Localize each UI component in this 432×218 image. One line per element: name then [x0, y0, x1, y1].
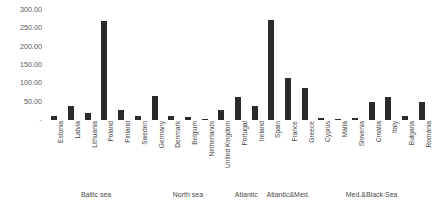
bar[interactable]	[285, 78, 291, 120]
category-label-slot: France	[280, 121, 297, 185]
category-label-slot: Latvia	[63, 121, 80, 185]
bar-slot	[163, 10, 180, 120]
category-label-slot: Spain	[263, 121, 280, 185]
category-label-slot: United Kingdom	[213, 121, 230, 185]
bar[interactable]	[152, 96, 158, 120]
bar[interactable]	[185, 117, 191, 120]
category-label-slot: Denmark	[163, 121, 180, 185]
y-axis-zero-label: -	[40, 116, 42, 124]
bar[interactable]	[252, 106, 258, 120]
category-axis-labels: EstoniaLatviaLithuaniaPolandFinlandSwede…	[46, 121, 430, 185]
group-label: Atlantic&Med.	[263, 190, 313, 199]
bar[interactable]	[369, 102, 375, 120]
bar-slot	[280, 10, 297, 120]
group-label: Atlantic	[230, 190, 263, 199]
y-axis-tick-label: 100.00	[20, 79, 42, 87]
category-label-slot: Romania	[413, 121, 430, 185]
bar-slot	[146, 10, 163, 120]
group-label: Med.&Black Sea	[313, 190, 430, 199]
bar[interactable]	[385, 97, 391, 120]
category-label-slot: Bulgaria	[397, 121, 414, 185]
bar[interactable]	[402, 116, 408, 120]
y-axis: 300.00250.00200.00150.00100.0050.00-	[0, 0, 46, 125]
bar[interactable]	[168, 116, 174, 120]
bar-slot	[129, 10, 146, 120]
bar-slot	[79, 10, 96, 120]
category-label-slot: Netherlands	[196, 121, 213, 185]
bar-slot	[347, 10, 364, 120]
bar-slot	[230, 10, 247, 120]
bar[interactable]	[419, 102, 425, 120]
bar-slot	[363, 10, 380, 120]
bar[interactable]	[235, 97, 241, 120]
category-label-slot: Belgium	[180, 121, 197, 185]
bar-chart: 300.00250.00200.00150.00100.0050.00- Est…	[0, 0, 432, 218]
bar-slot	[46, 10, 63, 120]
category-label-slot: Germany	[146, 121, 163, 185]
group-axis-labels: Baltic seaNorth seaAtlanticAtlantic&Med.…	[46, 190, 430, 206]
bar-slot	[296, 10, 313, 120]
category-label-slot: Ireland	[246, 121, 263, 185]
bar-slot	[413, 10, 430, 120]
bar[interactable]	[68, 106, 74, 120]
bar-slot	[213, 10, 230, 120]
bar[interactable]	[302, 88, 308, 120]
bar-slot	[113, 10, 130, 120]
group-label: Baltic sea	[46, 190, 146, 199]
plot-area	[46, 10, 430, 120]
bar[interactable]	[318, 118, 324, 120]
bar[interactable]	[118, 110, 124, 120]
bar[interactable]	[218, 110, 224, 120]
bar-slot	[96, 10, 113, 120]
bar-slot	[313, 10, 330, 120]
bar[interactable]	[202, 119, 208, 120]
bar-slot	[63, 10, 80, 120]
bar-slot	[330, 10, 347, 120]
category-label-slot: Malta	[330, 121, 347, 185]
category-label-slot: Portugal	[230, 121, 247, 185]
y-axis-tick-label: 150.00	[20, 61, 42, 69]
bar-slot	[380, 10, 397, 120]
bar[interactable]	[268, 20, 274, 120]
category-label-slot: Cyprus	[313, 121, 330, 185]
bar-slot	[397, 10, 414, 120]
category-label-slot: Lithuania	[79, 121, 96, 185]
y-axis-tick-label: 250.00	[20, 24, 42, 32]
bar[interactable]	[335, 119, 341, 120]
bar[interactable]	[352, 118, 358, 120]
category-label: Romania	[425, 121, 432, 147]
bar[interactable]	[51, 116, 57, 120]
y-axis-tick-label: 300.00	[20, 6, 42, 14]
category-label-slot: Poland	[96, 121, 113, 185]
category-label-slot: Greece	[296, 121, 313, 185]
bar[interactable]	[101, 21, 107, 120]
bar-slot	[246, 10, 263, 120]
category-label-slot: Finland	[113, 121, 130, 185]
group-label: North sea	[146, 190, 229, 199]
bar-slot	[180, 10, 197, 120]
y-axis-tick-label: 200.00	[20, 43, 42, 51]
category-label-slot: Croatia	[363, 121, 380, 185]
bar[interactable]	[85, 113, 91, 120]
bar-slot	[196, 10, 213, 120]
bar-slot	[263, 10, 280, 120]
bar[interactable]	[135, 116, 141, 120]
category-label-slot: Estonia	[46, 121, 63, 185]
category-label-slot: Slovenia	[347, 121, 364, 185]
category-label-slot: Sweden	[129, 121, 146, 185]
category-label-slot: Italy	[380, 121, 397, 185]
y-axis-tick-label: 50.00	[24, 98, 42, 106]
